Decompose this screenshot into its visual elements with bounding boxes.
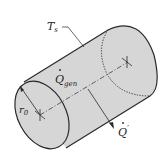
surface-temp-label: Ts bbox=[47, 20, 58, 34]
svg-text:Q′: Q′ bbox=[118, 124, 129, 139]
surface-temp-leader bbox=[62, 27, 84, 47]
heat-out-label: Q′ bbox=[118, 122, 129, 139]
cylinder-diagram: Ts Qgen Q′ r0 bbox=[0, 0, 162, 160]
heat-flux-arrowhead-icon bbox=[109, 122, 114, 129]
